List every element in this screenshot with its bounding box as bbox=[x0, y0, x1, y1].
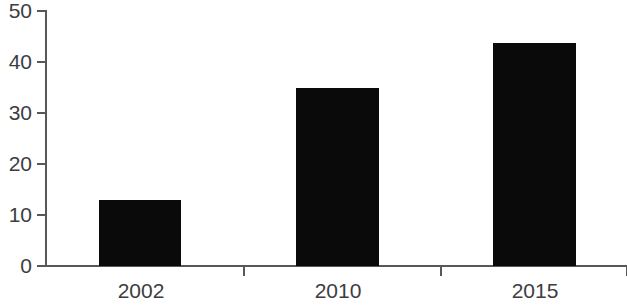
x-axis-label-2010: 2010 bbox=[298, 280, 378, 301]
y-axis-tick bbox=[37, 112, 46, 114]
y-axis-tick-label: 30 bbox=[0, 102, 32, 123]
y-axis-tick bbox=[37, 214, 46, 216]
y-axis-tick bbox=[37, 265, 46, 267]
x-axis-label-2015: 2015 bbox=[495, 280, 575, 301]
y-axis-tick-label: 20 bbox=[0, 153, 32, 174]
y-axis-tick-label: 40 bbox=[0, 51, 32, 72]
y-axis-tick bbox=[37, 10, 46, 12]
y-axis-line bbox=[45, 10, 47, 267]
y-axis-tick bbox=[37, 163, 46, 165]
bar-chart: 01020304050 200220102015 bbox=[0, 0, 627, 308]
bar-2015 bbox=[493, 43, 576, 266]
bar-2010 bbox=[296, 88, 379, 267]
x-axis-tick bbox=[243, 267, 245, 276]
x-axis-tick bbox=[440, 267, 442, 276]
bar-2002 bbox=[99, 200, 181, 266]
y-axis-tick-label: 50 bbox=[0, 0, 32, 21]
y-axis-tick-label: 0 bbox=[0, 255, 32, 276]
y-axis-tick bbox=[37, 61, 46, 63]
y-axis-tick-label: 10 bbox=[0, 204, 32, 225]
x-axis-label-2002: 2002 bbox=[101, 280, 181, 301]
